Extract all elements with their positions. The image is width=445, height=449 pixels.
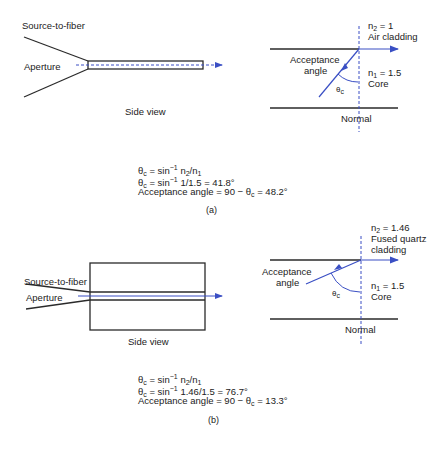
panel-a-label: (a) [206, 205, 217, 215]
acceptance-angle-label: Acceptance [262, 266, 312, 277]
cladding-label: Air cladding [368, 31, 418, 42]
side-view-caption: Side view [128, 336, 169, 347]
source-to-fiber-label: Source-to-fiber [24, 276, 87, 287]
cladding-label: Fused quartz [371, 233, 426, 244]
theta-c-label: θc [336, 84, 344, 97]
aperture-upper-line [24, 37, 88, 61]
cladding-label-2: cladding [371, 244, 406, 255]
aperture-lower-line [24, 69, 88, 97]
acceptance-angle-label-2: angle [304, 65, 327, 76]
aperture-label: Aperture [24, 61, 60, 72]
equation-b-3: Acceptance angle = 90 − θc = 13.3° [138, 395, 288, 410]
critical-angle-arc [338, 74, 358, 82]
core-label: Core [368, 78, 389, 89]
core-label: Core [371, 291, 392, 302]
incident-ray [306, 260, 361, 284]
equation-a-3: Acceptance angle = 90 − θc = 48.2° [138, 186, 288, 201]
side-view-caption: Side view [125, 106, 166, 117]
aperture-label: Aperture [26, 292, 62, 303]
normal-label: Normal [345, 324, 376, 335]
fiber-core [88, 61, 203, 69]
acceptance-angle-label: Acceptance [290, 54, 340, 65]
normal-label: Normal [341, 113, 372, 124]
source-to-fiber-label: Source-to-fiber [22, 20, 85, 31]
panel-b-label: (b) [208, 415, 219, 425]
theta-c-label: θc [332, 288, 340, 301]
acceptance-angle-label-2: angle [276, 277, 299, 288]
